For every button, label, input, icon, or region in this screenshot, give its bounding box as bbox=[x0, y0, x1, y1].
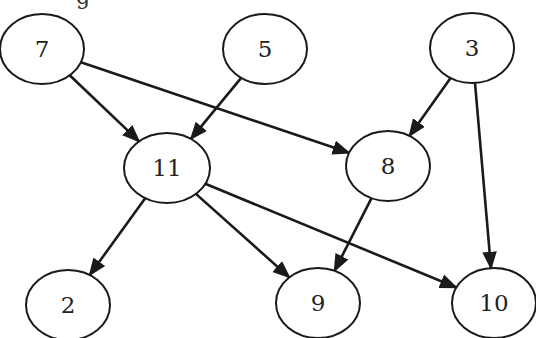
node-3: 3 bbox=[430, 13, 514, 83]
node-2: 2 bbox=[26, 270, 110, 338]
node-label: 2 bbox=[61, 292, 76, 318]
edge-7-to-8 bbox=[81, 62, 349, 153]
edge-3-to-8 bbox=[409, 78, 450, 136]
node-8: 8 bbox=[346, 131, 430, 201]
edge-11-to-9 bbox=[196, 194, 290, 278]
node-9: 9 bbox=[276, 268, 360, 338]
edge-5-to-11 bbox=[191, 78, 241, 139]
node-label: 3 bbox=[465, 35, 480, 61]
node-label: 8 bbox=[381, 153, 396, 179]
dag-diagram: g 7531182910 bbox=[0, 0, 536, 338]
node-7: 7 bbox=[0, 14, 84, 84]
node-label: 5 bbox=[258, 36, 273, 62]
node-label: 7 bbox=[35, 36, 50, 62]
node-11: 11 bbox=[124, 133, 210, 203]
edge-8-to-9 bbox=[335, 198, 372, 271]
node-10: 10 bbox=[452, 268, 536, 338]
cut-off-caption: g bbox=[76, 0, 90, 9]
node-label: 10 bbox=[479, 290, 508, 316]
edge-3-to-10 bbox=[475, 83, 491, 268]
node-layer: 7531182910 bbox=[0, 13, 536, 338]
node-5: 5 bbox=[223, 14, 307, 84]
edge-11-to-2 bbox=[90, 198, 146, 275]
node-label: 11 bbox=[152, 155, 181, 181]
edge-7-to-11 bbox=[70, 75, 139, 141]
node-label: 9 bbox=[311, 290, 326, 316]
